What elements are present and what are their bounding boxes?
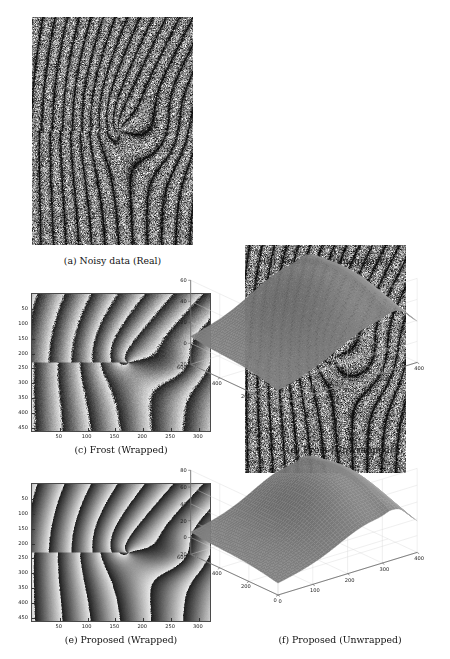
x-tick-label: 150 [110, 433, 120, 439]
y-tick-label: 350 [6, 394, 28, 400]
x-tick-mark [143, 618, 144, 621]
x-tick-mark [115, 618, 116, 621]
y-tick-label: 150 [6, 525, 28, 531]
x-tick-label: 150 [110, 623, 120, 629]
y-tick-label: 0 [273, 407, 276, 413]
x-tick-label: 300 [379, 566, 389, 572]
x-tick-label: 400 [414, 365, 424, 371]
x-tick-label: 300 [193, 623, 203, 629]
y-tick-mark [32, 499, 35, 500]
y-tick-mark [32, 428, 35, 429]
z-tick-label: 0 [183, 340, 186, 346]
figure-panel-grid: (a) Noisy data (Real) (b) Noisy data (Im… [0, 0, 450, 659]
x-tick-label: 100 [82, 433, 92, 439]
y-tick-label: 150 [6, 335, 28, 341]
x-tick-label: 300 [193, 433, 203, 439]
x-tick-mark [171, 428, 172, 431]
y-tick-mark [32, 368, 35, 369]
x-tick-label: 50 [56, 433, 62, 439]
caption-panel-d: (d) Frost (Unwrapped) [240, 444, 440, 455]
y-tick-label: 400 [6, 409, 28, 415]
z-tick-label: 60 [180, 484, 186, 490]
y-tick-label: 600 [177, 364, 187, 370]
y-tick-label: 100 [6, 320, 28, 326]
y-tick-mark [32, 529, 35, 530]
surface-mesh [191, 456, 417, 583]
x-tick-mark [60, 428, 61, 431]
y-tick-mark [32, 309, 35, 310]
y-tick-mark [32, 339, 35, 340]
x-tick-label: 300 [379, 376, 389, 382]
y-tick-mark [32, 573, 35, 574]
y-tick-mark [32, 603, 35, 604]
panel-a-noisy-real [32, 17, 193, 245]
x-tick-label: 0 [278, 598, 281, 604]
x-tick-mark [143, 428, 144, 431]
caption-panel-f: (f) Proposed (Unwrapped) [240, 634, 440, 645]
y-tick-mark [32, 618, 35, 619]
y-tick-mark [32, 383, 35, 384]
x-tick-mark [88, 618, 89, 621]
y-tick-label: 400 [6, 599, 28, 605]
y-tick-label: 200 [6, 540, 28, 546]
y-tick-label: 400 [212, 380, 222, 386]
x-tick-label: 200 [345, 387, 355, 393]
z-tick-label: 40 [180, 298, 186, 304]
x-tick-mark [60, 618, 61, 621]
x-tick-mark [88, 428, 89, 431]
y-tick-label: 250 [6, 364, 28, 370]
y-tick-label: 250 [6, 554, 28, 560]
z-tick-label: 0 [183, 534, 186, 540]
y-tick-mark [32, 354, 35, 355]
y-tick-label: 200 [241, 393, 251, 399]
x-tick-label: 250 [165, 433, 175, 439]
y-tick-mark [32, 544, 35, 545]
y-tick-label: 50 [6, 305, 28, 311]
y-tick-mark [32, 514, 35, 515]
y-tick-mark [32, 324, 35, 325]
y-tick-mark [32, 413, 35, 414]
y-tick-mark [32, 558, 35, 559]
x-tick-mark [199, 428, 200, 431]
y-tick-label: 350 [6, 584, 28, 590]
y-tick-label: 0 [273, 597, 276, 603]
y-tick-label: 50 [6, 495, 28, 501]
z-tick-label: 40 [180, 501, 186, 507]
z-tick-label: 20 [180, 319, 186, 325]
y-tick-mark [32, 398, 35, 399]
fringe-pattern-real [32, 17, 193, 245]
y-tick-label: 100 [6, 510, 28, 516]
x-tick-label: 400 [414, 555, 424, 561]
x-tick-label: 100 [82, 623, 92, 629]
panel-d-frost-unwrapped: -20020406002004006000100200300400 [222, 293, 450, 443]
y-tick-label: 200 [6, 350, 28, 356]
y-tick-label: 400 [212, 570, 222, 576]
x-tick-label: 250 [165, 623, 175, 629]
x-tick-label: 50 [56, 623, 62, 629]
x-tick-mark [171, 618, 172, 621]
x-tick-mark [199, 618, 200, 621]
caption-panel-e: (e) Proposed (Wrapped) [21, 634, 221, 645]
x-tick-label: 200 [137, 433, 147, 439]
caption-panel-c: (c) Frost (Wrapped) [21, 444, 221, 455]
z-tick-label: 80 [180, 467, 186, 473]
y-tick-label: 450 [6, 614, 28, 620]
x-tick-label: 0 [278, 408, 281, 414]
x-tick-label: 100 [310, 587, 320, 593]
z-tick-label: 20 [180, 518, 186, 524]
panel-f-proposed-unwrapped: -2002040608002004006000100200300400 [222, 483, 450, 633]
y-tick-label: 200 [241, 583, 251, 589]
x-tick-mark [115, 428, 116, 431]
x-tick-label: 100 [310, 397, 320, 403]
z-tick-label: 60 [180, 277, 186, 283]
x-tick-label: 200 [345, 577, 355, 583]
y-tick-label: 600 [177, 554, 187, 560]
x-tick-label: 200 [137, 623, 147, 629]
y-tick-label: 300 [6, 379, 28, 385]
caption-panel-a: (a) Noisy data (Real) [32, 255, 193, 266]
y-tick-mark [32, 588, 35, 589]
y-tick-label: 450 [6, 424, 28, 430]
y-tick-label: 300 [6, 569, 28, 575]
